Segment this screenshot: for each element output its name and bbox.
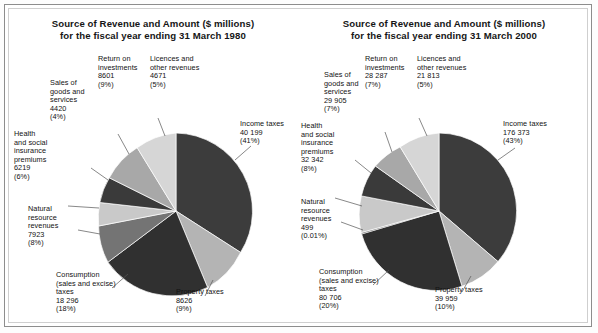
chart-panel-2000: Source of Revenue and Amount ($ millions… (299, 8, 589, 323)
chart-panel-1980: Source of Revenue and Amount ($ millions… (8, 8, 298, 323)
leader-income-taxes-2000 (498, 148, 515, 160)
label-income-taxes-2000: Income taxes 176 373 (43%) (503, 120, 565, 146)
label-income-taxes-1980: Income taxes 40 199 (41%) (240, 120, 300, 146)
label-return-investments-1980: Return on investments 8601 (9%) (98, 55, 150, 89)
label-natural-resource-2000: Natural resource revenues 499 (0.01%) (301, 198, 353, 241)
leader-natural-resource-1980 (78, 230, 100, 234)
leader-income-taxes-1980 (235, 146, 251, 160)
label-licences-other-2000: Licences and other revenues 21 813 (5%) (417, 55, 485, 89)
figure-root: Source of Revenue and Amount ($ millions… (0, 0, 598, 333)
leader-sales-goods-2000 (355, 160, 371, 173)
label-return-investments-2000: Return on investments 28 287 (7%) (365, 55, 419, 89)
leader-sales-goods-1980 (91, 168, 108, 180)
leader-licences-other-1980 (158, 118, 165, 136)
leader-return-investments-2000 (385, 132, 392, 152)
label-consumption-taxes-1980: Consumption (sales and excise) taxes 18 … (56, 271, 138, 314)
label-property-taxes-1980: Property taxes 8626 (9%) (176, 288, 248, 314)
pie-2000-slices (359, 133, 517, 291)
leader-licences-other-2000 (419, 118, 427, 136)
leader-return-investments-1980 (118, 134, 129, 154)
label-sales-goods-1980: Sales of goods and services 4420 (4%) (50, 79, 100, 122)
label-property-taxes-2000: Property taxes 39 959 (10%) (435, 286, 507, 312)
label-licences-other-1980: Licences and other revenues 4671 (5%) (150, 55, 216, 89)
label-consumption-taxes-2000: Consumption (sales and excise) taxes 80 … (319, 268, 403, 311)
label-natural-resource-1980: Natural resource revenues 7923 (8%) (28, 205, 80, 248)
label-health-social-2000: Health and social insurance premiums 32 … (301, 122, 353, 174)
label-health-social-1980: Health and social insurance premiums 621… (14, 130, 66, 182)
